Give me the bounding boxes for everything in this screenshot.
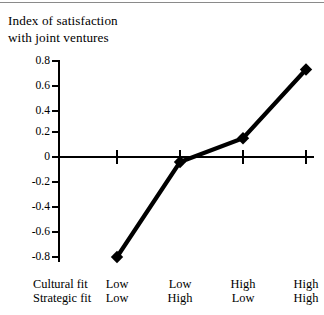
x-group-cultural-fit-value: Low <box>82 278 152 290</box>
data-series-layer <box>0 0 324 315</box>
x-group-strategic-fit-value: High <box>145 292 215 304</box>
chart-figure: Index of satisfaction with joint venture… <box>0 0 324 315</box>
x-group-cultural-fit-value: High <box>208 278 278 290</box>
x-group-cultural-fit-value: Low <box>145 278 215 290</box>
x-group-strategic-fit-value: Low <box>82 292 152 304</box>
plot-area: 0.8 0.6 0.4 0.2 0 -0.2 -0.4 -0.6 -0.8 <box>0 0 324 315</box>
satisfaction-line <box>117 70 306 258</box>
x-group-cultural-fit-value: High <box>271 278 324 290</box>
x-group-strategic-fit-value: Low <box>208 292 278 304</box>
axis-row-header-cultural-fit: Cultural fit <box>33 278 88 290</box>
x-group-strategic-fit-value: High <box>271 292 324 304</box>
